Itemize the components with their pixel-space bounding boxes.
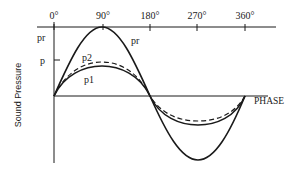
sound-pressure-phase-diagram: 0° 90° 180° 270° 360° pr p pr p2 p1 PHAS… bbox=[0, 0, 298, 172]
pr-axis-label: pr bbox=[37, 32, 46, 43]
tick-label-180: 180° bbox=[141, 10, 160, 21]
p-axis-label: p bbox=[40, 55, 45, 66]
tick-label-90: 90° bbox=[96, 10, 110, 21]
tick-label-0: 0° bbox=[50, 10, 59, 21]
pr-curve-label: pr bbox=[131, 35, 140, 46]
p1-curve-label: p1 bbox=[84, 74, 94, 85]
tick-label-360: 360° bbox=[236, 10, 255, 21]
p2-curve-label: p2 bbox=[82, 52, 92, 63]
phase-label: PHASE bbox=[254, 96, 284, 106]
p2-curve bbox=[54, 62, 245, 121]
tick-label-270: 270° bbox=[188, 10, 207, 21]
y-axis-label: Sound Pressure bbox=[13, 63, 23, 128]
